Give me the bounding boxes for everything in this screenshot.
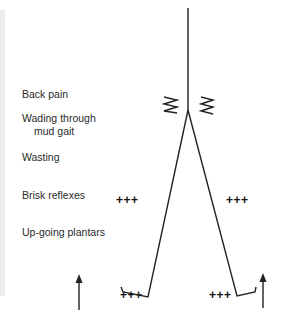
left-leg-line-icon: [121, 110, 188, 297]
pain-squiggle-right-icon: [201, 97, 213, 114]
diagram-figure: [0, 0, 282, 320]
arrowhead-left-icon: [76, 274, 83, 283]
pain-squiggle-left-icon: [164, 97, 177, 113]
arrowhead-right-icon: [260, 273, 267, 282]
right-leg-line-icon: [188, 110, 256, 296]
